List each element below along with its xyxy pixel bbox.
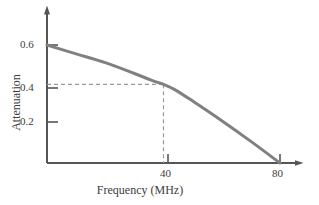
x-axis-tick-label-40: 40 bbox=[160, 168, 171, 179]
x-axis-title: Frequency (MHz) bbox=[0, 183, 280, 198]
y-axis-title: Attenuation bbox=[9, 48, 24, 158]
attenuation-vs-frequency-chart: 0.6 0.4 0.2 40 80 Frequency (MHz) Attenu… bbox=[0, 0, 319, 205]
x-axis-tick-label-80: 80 bbox=[272, 168, 283, 179]
attenuation-curve bbox=[47, 45, 280, 163]
